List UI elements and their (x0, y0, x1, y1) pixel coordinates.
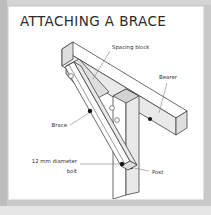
bolt-marker-brace-bottom (120, 162, 124, 166)
bolt-marker-post-upper-b (115, 118, 120, 123)
label-bolt-line-2: bolt (67, 168, 77, 174)
post-side-face (126, 89, 139, 195)
label-spacing-block: Spacing block (112, 44, 150, 51)
label-brace: Brace (52, 122, 68, 128)
frame-top-band (0, 0, 211, 5)
isometric-diagram-svg: .ln { fill:none; stroke:#3a3a3a; stroke-… (9, 27, 203, 199)
bolt-marker-post-upper-a (110, 106, 115, 111)
leader-brace (70, 113, 89, 125)
frame-left-band (0, 0, 7, 215)
label-bolt-line-1: 12 mm diameter (32, 158, 78, 164)
bolt-marker-brace-top (69, 74, 74, 79)
illustration-card: ATTACHING A BRACE .ln { fill:none; strok… (9, 7, 203, 199)
label-bearer: Bearer (159, 74, 178, 80)
bolt-marker-brace-mid (88, 109, 92, 113)
label-post: Post (152, 169, 163, 175)
brace-detail-illustration: .ln { fill:none; stroke:#3a3a3a; stroke-… (9, 27, 203, 199)
frame-bottom-band (0, 206, 211, 215)
page-frame: ATTACHING A BRACE .ln { fill:none; strok… (0, 0, 211, 215)
bolt-marker-bearer-right (148, 117, 152, 121)
